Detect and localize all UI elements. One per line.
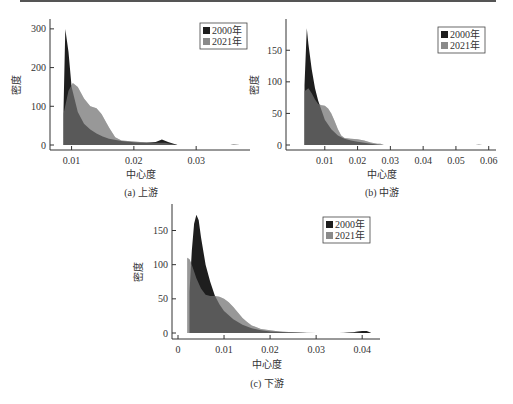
y-tick-label: 50	[158, 293, 168, 304]
x-tick-label: 0.01	[215, 344, 233, 355]
legend-label-2021: 2021年	[335, 229, 365, 241]
x-tick-label: 0	[176, 344, 181, 355]
panel-caption: (c) 下游	[250, 377, 284, 390]
x-axis-title: 中心度	[252, 358, 282, 370]
legend: 2000年2021年	[323, 217, 370, 243]
legend-label-2000: 2000年	[335, 218, 365, 230]
x-tick-label: 0.02	[261, 344, 279, 355]
legend-swatch-2021	[326, 232, 333, 239]
y-tick-label: 150	[153, 225, 168, 236]
x-tick-label: 0.04	[353, 344, 371, 355]
y-tick-label: 0	[163, 328, 168, 339]
legend-swatch-2000	[326, 221, 333, 228]
x-tick-label: 0.03	[307, 344, 325, 355]
y-axis-title: 密度	[132, 262, 144, 282]
chart-panel-c: 00.010.020.030.04050100150中心度密度(c) 下游200…	[0, 0, 513, 404]
y-tick-label: 100	[153, 259, 168, 270]
